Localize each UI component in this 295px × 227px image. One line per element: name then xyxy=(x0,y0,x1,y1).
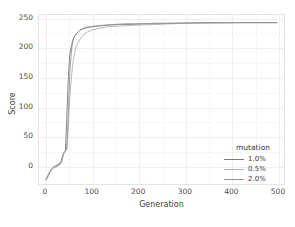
chart-figure: Score 050100150200250 0100200300400500 G… xyxy=(0,0,295,227)
legend-line-swatch-icon xyxy=(224,165,244,174)
legend-item-label: 0.5% xyxy=(248,165,266,173)
legend-title: mutation xyxy=(222,143,284,152)
x-tick-label: 200 xyxy=(131,188,145,196)
legend-entries: 1.0%0.5%2.0% xyxy=(222,154,284,184)
legend-item[interactable]: 1.0% xyxy=(222,154,284,164)
legend: mutation 1.0%0.5%2.0% xyxy=(222,143,284,184)
y-tick-label: 100 xyxy=(0,103,33,111)
legend-item-label: 2.0% xyxy=(248,175,266,183)
legend-item[interactable]: 0.5% xyxy=(222,164,284,174)
y-tick-label: 0 xyxy=(0,162,33,170)
legend-item-label: 1.0% xyxy=(248,155,266,163)
y-tick-label: 250 xyxy=(0,14,33,22)
x-tick-label: 400 xyxy=(224,188,238,196)
legend-line-swatch-icon xyxy=(224,155,244,164)
x-tick-label: 500 xyxy=(271,188,285,196)
x-tick-label: 300 xyxy=(178,188,192,196)
y-tick-label: 150 xyxy=(0,73,33,81)
y-tick-label: 50 xyxy=(0,133,33,141)
x-tick-label: 100 xyxy=(84,188,98,196)
x-axis-label: Generation xyxy=(38,200,285,209)
x-tick-label: 0 xyxy=(43,188,48,196)
y-tick-label: 200 xyxy=(0,44,33,52)
legend-line-swatch-icon xyxy=(224,175,244,184)
legend-item[interactable]: 2.0% xyxy=(222,174,284,184)
